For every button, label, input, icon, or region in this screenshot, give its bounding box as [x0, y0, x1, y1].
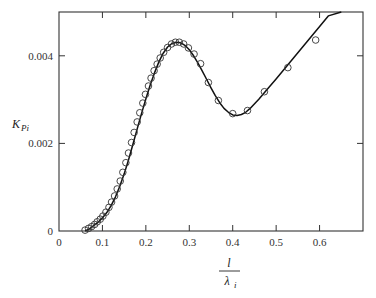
x-label-numerator: l — [227, 256, 231, 270]
x-tick-label: 0 — [56, 236, 62, 248]
plot-frame — [59, 12, 363, 231]
y-label-main: K — [11, 117, 21, 131]
fitted-curve — [85, 12, 341, 231]
x-axis-label: l λ i — [219, 256, 240, 290]
x-tick-label: 0.5 — [269, 236, 283, 248]
x-tick-label: 0.4 — [226, 236, 240, 248]
y-tick-label: 0.004 — [28, 50, 53, 62]
y-axis: 00.0020.004 — [28, 50, 363, 237]
curve-path — [85, 12, 341, 231]
axes-box — [59, 12, 363, 231]
x-label-denominator: λ — [223, 274, 229, 288]
x-tick-label: 0.2 — [139, 236, 153, 248]
x-tick-label: 0.3 — [182, 236, 196, 248]
x-tick-label: 0.1 — [96, 236, 110, 248]
y-label-sub: Pi — [20, 123, 29, 133]
data-point-marker — [312, 37, 319, 44]
y-axis-label: K Pi — [11, 117, 29, 133]
x-tick-label: 0.6 — [313, 236, 327, 248]
x-label-denominator-sub: i — [234, 280, 237, 290]
y-tick-label: 0 — [48, 225, 54, 237]
chart: 00.10.20.30.40.50.6 00.0020.004 K Pi l λ… — [0, 0, 376, 298]
y-tick-label: 0.002 — [28, 137, 53, 149]
